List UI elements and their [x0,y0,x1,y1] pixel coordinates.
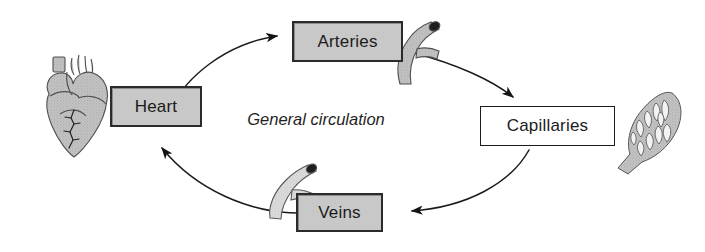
diagram-caption: General circulation [218,110,414,129]
node-arteries-label: Arteries [317,32,377,52]
node-veins[interactable]: Veins [296,193,383,232]
capillary-bed-icon [612,88,688,180]
node-capillaries-label: Capillaries [507,116,589,136]
node-veins-label: Veins [318,203,361,223]
node-heart[interactable]: Heart [110,86,202,127]
node-heart-label: Heart [135,97,178,117]
node-capillaries[interactable]: Capillaries [480,106,615,146]
arrow-capillaries-to-veins [412,150,529,211]
circulation-diagram: Heart Arteries Capillaries Veins General… [0,0,705,252]
anatomical-heart-icon [36,52,116,164]
node-arteries[interactable]: Arteries [292,21,403,62]
